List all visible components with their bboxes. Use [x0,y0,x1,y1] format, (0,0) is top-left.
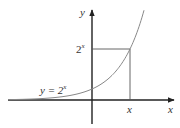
y-axis-label: y [79,6,85,18]
x-tick-label: x [126,103,132,115]
curve-label: y = 2x [39,83,67,96]
graph: y x x 2x y = 2x [0,0,180,128]
y-tick-label: 2x [76,42,86,55]
x-axis-label: x [167,103,173,115]
